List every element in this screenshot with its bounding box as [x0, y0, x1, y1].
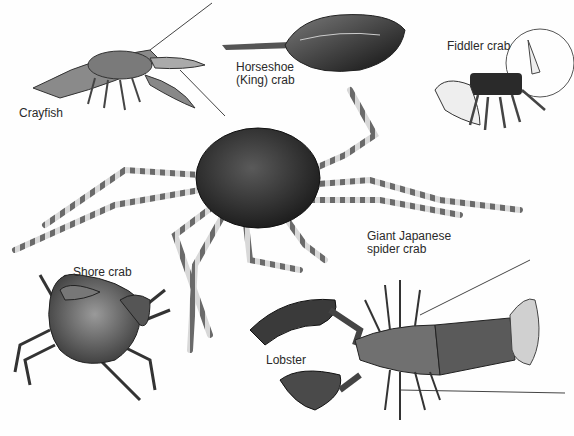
label-lobster: Lobster — [266, 354, 306, 367]
label-horseshoe-line2: (King) crab — [236, 74, 295, 87]
shore-crab-drawing — [15, 274, 170, 400]
crayfish-drawing — [33, 3, 225, 116]
label-spider-crab-line2: spider crab — [367, 243, 426, 256]
crustacean-illustration: Crayfish Horseshoe (King) crab Fiddler c… — [0, 0, 574, 436]
label-shore-crab: Shore crab — [73, 266, 132, 279]
label-crayfish: Crayfish — [19, 107, 63, 120]
lobster-drawing — [250, 260, 565, 420]
label-fiddler-crab: Fiddler crab — [447, 40, 510, 53]
